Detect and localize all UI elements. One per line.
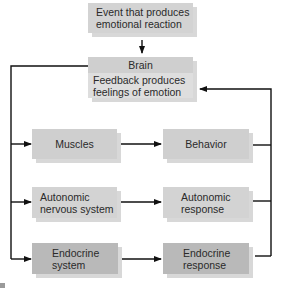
autonomic-ns-line2: nervous system (40, 203, 114, 215)
muscles-label: Muscles (55, 138, 94, 150)
brain-title: Brain (88, 57, 193, 73)
brain-line1: Feedback produces (93, 74, 193, 86)
brain-line2: feelings of emotion (93, 86, 193, 98)
autonomic-response-box: Autonomic response (163, 187, 249, 218)
autonomic-response-line2: response (181, 203, 224, 215)
brain-feedback-text: Feedback produces feelings of emotion (88, 73, 193, 98)
feedback-trunk-line (200, 89, 271, 256)
autonomic-ns-line1: Autonomic (40, 191, 90, 203)
endocrine-response-box: Endocrine response (163, 243, 249, 274)
muscles-box: Muscles (32, 129, 117, 159)
corner-mark (0, 283, 5, 288)
autonomic-response-line1: Autonomic (181, 191, 231, 203)
endocrine-system-box: Endocrine system (32, 243, 118, 274)
event-box: Event that produces emotional reaction (88, 3, 193, 33)
event-line1: Event that produces (96, 6, 189, 18)
autonomic-ns-box: Autonomic nervous system (32, 187, 117, 218)
event-line2: emotional reaction (96, 18, 182, 30)
brain-box: Brain Feedback produces feelings of emot… (88, 57, 193, 98)
endocrine-system-line2: system (52, 259, 85, 271)
left-trunk-line (11, 66, 88, 259)
endocrine-response-line1: Endocrine (183, 247, 230, 259)
endocrine-system-line1: Endocrine (52, 247, 99, 259)
behavior-label: Behavior (185, 138, 226, 150)
behavior-box: Behavior (163, 129, 249, 159)
endocrine-response-line2: response (183, 259, 226, 271)
